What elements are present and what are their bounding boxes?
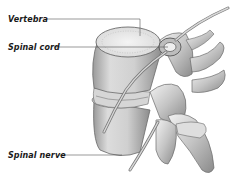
upper-vertebral-body (93, 27, 162, 94)
vertebra-label: Vertebra (8, 15, 48, 24)
spinal-nerve-label: Spinal nerve (8, 151, 66, 160)
vertebral-body-top (96, 27, 160, 57)
spinal-cord-label: Spinal cord (8, 43, 60, 52)
